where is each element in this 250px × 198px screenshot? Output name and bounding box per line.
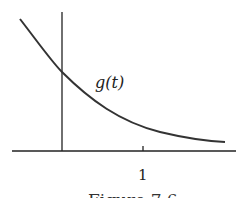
x-tick-label: 1 bbox=[138, 166, 148, 184]
curve-label: g(t) bbox=[95, 73, 124, 92]
figure-canvas: g(t) 1 Figure 7.6 bbox=[0, 0, 250, 198]
figure-caption: Figure 7.6 bbox=[88, 190, 178, 198]
